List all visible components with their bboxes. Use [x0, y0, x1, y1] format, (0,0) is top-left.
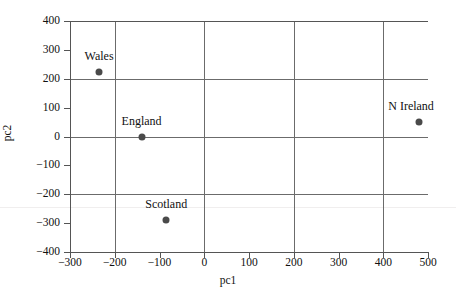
y-axis-tick-label: −100 — [20, 159, 60, 171]
gridline-horizontal — [70, 79, 428, 80]
y-axis-tick — [64, 137, 70, 138]
data-point[interactable] — [416, 119, 423, 126]
data-point-label: England — [122, 115, 162, 127]
gridline-horizontal — [70, 137, 428, 138]
scan-artifact-line — [0, 207, 456, 208]
x-axis-tick-label: 200 — [272, 256, 316, 268]
x-axis-tick-label: 0 — [182, 256, 226, 268]
y-axis-tick-label: 400 — [20, 15, 60, 27]
x-axis-tick-label: −200 — [93, 256, 137, 268]
top-frame-line — [70, 21, 428, 22]
y-axis-tick — [64, 194, 70, 195]
x-axis-tick-label: 100 — [227, 256, 271, 268]
x-axis-label: pc1 — [0, 274, 456, 286]
y-axis-tick — [64, 21, 70, 22]
x-axis-tick-label: 400 — [361, 256, 405, 268]
y-axis-tick-label: 300 — [20, 44, 60, 56]
data-point[interactable] — [138, 133, 145, 140]
x-axis-tick-label: 300 — [317, 256, 361, 268]
x-axis-tick-label: −300 — [48, 256, 92, 268]
y-axis-tick-label: 100 — [20, 102, 60, 114]
data-point-label: Wales — [85, 50, 114, 62]
scatter-plot-figure: −400−300−200−1000100200300400 −300−200−1… — [0, 0, 456, 301]
y-axis-tick — [64, 50, 70, 51]
data-point[interactable] — [163, 216, 170, 223]
gridline-horizontal — [70, 194, 428, 195]
data-point-label: Scotland — [145, 198, 187, 210]
y-axis-tick-label: 200 — [20, 73, 60, 85]
y-axis-tick-label: −200 — [20, 188, 60, 200]
x-axis-tick-label: 500 — [406, 256, 450, 268]
y-axis-tick-label: 0 — [20, 131, 60, 143]
y-axis-line — [70, 21, 71, 252]
y-axis-tick — [64, 79, 70, 80]
data-point-label: N Ireland — [388, 100, 434, 112]
data-point[interactable] — [96, 69, 103, 76]
y-axis-tick — [64, 108, 70, 109]
y-axis-tick-label: −300 — [20, 217, 60, 229]
y-axis-tick — [64, 223, 70, 224]
y-axis-label: pc2 — [1, 113, 13, 153]
x-axis-tick-label: −100 — [138, 256, 182, 268]
y-axis-tick — [64, 165, 70, 166]
